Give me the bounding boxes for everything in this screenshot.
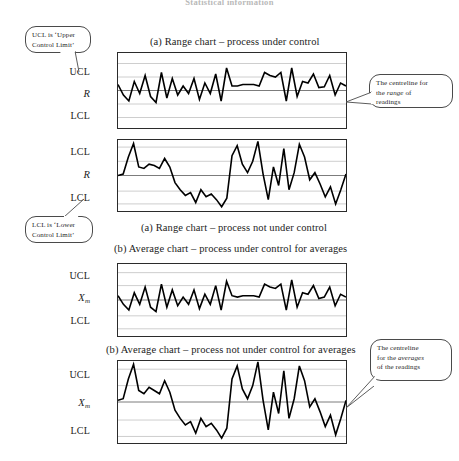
callout-ucl-line2: Control Limit’ <box>32 41 74 49</box>
callout-lcl-tail <box>58 198 94 220</box>
chart1-axis-label-centre: R <box>46 88 90 99</box>
data-series-line <box>118 68 346 103</box>
callout-ucl-line1: UCL is ‘Upper <box>32 31 75 39</box>
chart2-axis-label-upper: LCL <box>46 146 90 157</box>
chart1-axis-label-lower: LCL <box>46 110 90 121</box>
callout-range-line3: readings <box>376 98 401 106</box>
chart-caption-2: (a) Range chart – process not under cont… <box>141 222 327 233</box>
chart3-axis-label-centre: Xm <box>46 292 90 305</box>
callout-range-centreline: The centreline for the range of readings <box>369 74 453 108</box>
chart-plot-range-under-control <box>117 52 347 129</box>
callout-avg-line1: The centreline <box>377 344 419 352</box>
chart4-axis-label-lower: LCL <box>46 425 90 436</box>
callout-lcl-line1: LCL is ‘Lower <box>32 221 75 229</box>
callout-lower-control-limit: LCL is ‘Lower Control Limit’ <box>25 216 93 243</box>
chart-plot-average-under-control <box>117 263 347 337</box>
chart-caption-4: (b) Average chart – process not under co… <box>106 344 356 355</box>
chart4-centre-text: X <box>78 397 85 408</box>
average-under-control-svg <box>118 264 346 336</box>
chart-caption-3: (b) Average chart – process under contro… <box>114 243 347 254</box>
chart3-axis-label-lower: LCL <box>46 315 90 326</box>
data-series-line <box>118 280 346 312</box>
callout-range-line2-pre: the <box>376 89 387 97</box>
chart3-centre-text: X <box>78 292 85 303</box>
callout-range-line2-emphasis: range <box>387 89 404 97</box>
callout-avg-line3: of the readings <box>377 363 420 371</box>
callout-range-line1: The centreline for <box>376 79 428 87</box>
callout-lcl-line2: Control Limit’ <box>32 231 74 239</box>
data-series-line <box>118 141 346 206</box>
range-not-under-control-svg <box>118 140 346 211</box>
callout-range-tail <box>344 88 374 110</box>
chart2-axis-label-centre: R <box>46 169 90 180</box>
chart2-centre-text: R <box>83 169 90 180</box>
running-header: Statistical information <box>0 0 459 6</box>
chart-plot-average-not-under-control <box>117 360 347 444</box>
callout-range-line2-post: of <box>404 89 412 97</box>
data-series-line <box>118 362 346 438</box>
chart3-axis-label-upper: UCL <box>46 270 90 281</box>
callout-average-tail <box>344 372 378 412</box>
chart-caption-1: (a) Range chart – process under control <box>150 36 320 47</box>
chart4-centre-subscript: m <box>85 402 90 410</box>
chart1-centre-text: R <box>83 88 90 99</box>
chart-plot-range-not-under-control <box>117 139 347 212</box>
callout-avg-line2-emphasis: averages <box>398 354 424 362</box>
callout-avg-line2-pre: for the <box>377 354 398 362</box>
chart4-axis-label-centre: Xm <box>46 397 90 410</box>
callout-ucl-tail <box>55 50 91 74</box>
range-under-control-svg <box>118 53 346 128</box>
chart4-axis-label-upper: UCL <box>46 369 90 380</box>
callout-average-centreline: The centreline for the averages of the r… <box>370 339 452 381</box>
figure-page: Statistical information (a) Range chart … <box>0 0 459 461</box>
callout-upper-control-limit: UCL is ‘Upper Control Limit’ <box>25 26 91 53</box>
chart3-centre-subscript: m <box>85 297 90 305</box>
average-not-under-control-svg <box>118 361 346 443</box>
